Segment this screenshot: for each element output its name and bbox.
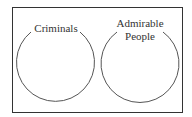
label-admirable: Admirable — [116, 17, 163, 29]
circle-admirable-people — [101, 32, 179, 102]
circle-criminals — [17, 32, 95, 101]
label-people: People — [125, 30, 155, 42]
venn-diagram: Criminals Admirable People — [0, 0, 192, 117]
label-criminals: Criminals — [34, 22, 77, 34]
